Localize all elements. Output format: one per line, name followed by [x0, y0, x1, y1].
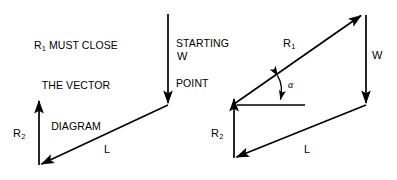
closure-note-line-1: R1 MUST CLOSE — [12, 39, 140, 52]
right-vector-r1-line — [234, 16, 361, 105]
closure-note-line-3: DIAGRAM — [12, 120, 140, 133]
right-label-l: L — [304, 142, 310, 156]
right-label-w: W — [372, 48, 383, 62]
vector-diagram-figure: R1 MUST CLOSE THE VECTOR DIAGRAM STARTIN… — [0, 0, 397, 180]
angle-alpha-arc-arrow — [278, 76, 282, 100]
left-label-w: W — [177, 49, 188, 63]
closure-note-r-subscript: 1 — [42, 44, 46, 53]
left-label-r2-subscript: 2 — [21, 132, 25, 141]
closure-note-line-1-rest: MUST CLOSE — [46, 39, 118, 51]
right-label-r2-subscript: 2 — [219, 132, 223, 141]
closure-note-text: R1 MUST CLOSE THE VECTOR DIAGRAM — [12, 12, 140, 160]
right-label-r2: R2 — [211, 126, 223, 140]
right-label-r1-subscript: 1 — [291, 42, 295, 51]
closure-note-line-2: THE VECTOR — [12, 79, 140, 92]
left-label-r2-symbol: R — [13, 127, 21, 139]
right-label-r2-symbol: R — [211, 127, 219, 139]
starting-point-line-2: POINT — [176, 77, 229, 90]
right-label-r1-symbol: R — [283, 37, 291, 49]
left-label-l: L — [104, 142, 110, 156]
right-diagram-group — [234, 15, 366, 158]
right-vector-l-line — [237, 105, 367, 157]
right-label-r1: R1 — [283, 36, 295, 50]
left-label-r2: R2 — [13, 126, 25, 140]
angle-alpha-label: α — [288, 79, 293, 92]
starting-point-caption: STARTING POINT — [176, 10, 229, 118]
closure-note-r-symbol: R — [34, 39, 42, 51]
